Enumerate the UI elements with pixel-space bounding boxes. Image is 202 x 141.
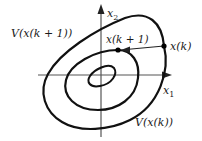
point-x-k: [161, 43, 166, 48]
x1-axis-label: x1: [163, 84, 174, 99]
lyapunov-diagram: x2 x1 x(k) x(k + 1) V(x(k + 1)) V(x(k)): [0, 0, 202, 141]
point-x-k-label: x(k): [170, 40, 191, 53]
inner-level-curve: [88, 66, 115, 87]
point-x-k1: [115, 47, 120, 52]
trajectory-line: [126, 46, 164, 50]
outer-level-label: V(x(k + 1)): [11, 27, 72, 40]
x2-axis-arrow-icon: [98, 4, 105, 14]
x2-axis-label: x2: [107, 7, 118, 22]
inner-level-label: V(x(k)): [135, 116, 173, 129]
point-x-k1-label: x(k + 1): [106, 33, 149, 45]
middle-level-curve: [65, 50, 138, 110]
